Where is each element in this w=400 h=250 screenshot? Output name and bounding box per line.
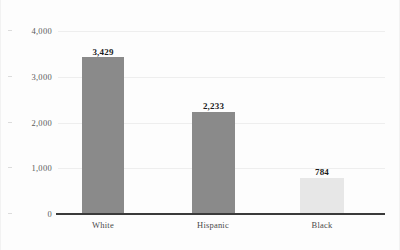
x-tick-label-black: Black — [312, 220, 333, 230]
bar-white[interactable]: 3,429 — [82, 31, 124, 214]
y-tick-label: 2,000 — [31, 118, 52, 128]
bar-rect — [82, 57, 124, 214]
bar-rect — [300, 178, 344, 214]
y-tick-label: 1,000 — [31, 163, 52, 173]
y-tick-mark — [8, 30, 12, 31]
plot-area: 3,429 2,233 784 — [58, 31, 385, 214]
bar-hispanic[interactable]: 2,233 — [192, 31, 235, 214]
x-tick-label-hispanic: Hispanic — [197, 220, 229, 230]
x-axis-line — [56, 213, 385, 215]
y-tick-label: 4,000 — [31, 26, 52, 36]
bar-value-label: 3,429 — [92, 47, 113, 57]
bar-value-label: 2,233 — [203, 101, 224, 111]
frame-left-border — [0, 0, 1, 250]
x-tick-label-white: White — [92, 220, 114, 230]
y-tick-mark — [8, 122, 12, 123]
bar-rect — [192, 112, 235, 214]
y-tick-label: 3,000 — [31, 72, 52, 82]
bar-chart: 3,429 2,233 784 4,000 3,000 2,000 1,000 … — [0, 0, 400, 250]
y-tick-mark — [8, 76, 12, 77]
y-tick-mark — [8, 213, 12, 214]
bar-black[interactable]: 784 — [300, 31, 344, 214]
y-tick-label: 0 — [47, 209, 52, 219]
bar-value-label: 784 — [315, 167, 329, 177]
y-tick-mark — [8, 167, 12, 168]
